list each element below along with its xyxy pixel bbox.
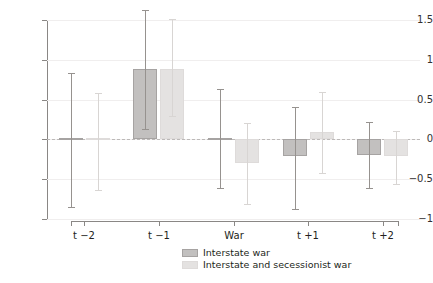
legend-swatch-icon xyxy=(182,261,198,269)
gridline--1 xyxy=(47,219,420,220)
plot-area xyxy=(47,20,420,219)
x-tick-mark xyxy=(159,221,160,226)
x-tick-label-4: t +2 xyxy=(353,230,413,241)
y-tick-label: 0 xyxy=(397,134,433,144)
y-tick-label: 1 xyxy=(397,55,433,65)
legend-label: Interstate war xyxy=(203,247,270,259)
x-tick-mark xyxy=(383,221,384,226)
y-tick-mark xyxy=(42,60,47,61)
x-tick-mark xyxy=(234,221,235,226)
x-tick-label-3: t +1 xyxy=(278,230,338,241)
y-tick-mark xyxy=(42,219,47,220)
error-bar-cap-upper xyxy=(393,131,400,132)
y-tick-mark xyxy=(42,20,47,21)
x-tick-label-2: War xyxy=(204,230,264,241)
y-tick-mark xyxy=(42,179,47,180)
legend-label: Interstate and secessionist war xyxy=(203,259,351,271)
y-tick-mark xyxy=(42,100,47,101)
chart-container: −1−0.500.511.5 t −2t −1Wart +1t +2 Inter… xyxy=(0,0,433,283)
x-tick-label-0: t −2 xyxy=(54,230,114,241)
legend-swatch-icon xyxy=(182,249,198,257)
chart-legend: Interstate warInterstate and secessionis… xyxy=(182,247,351,271)
error-bar-line xyxy=(369,122,370,188)
x-tick-label-1: t −1 xyxy=(129,230,189,241)
x-axis-bracket xyxy=(71,221,399,226)
error-bar-cap-upper xyxy=(366,122,373,123)
x-tick-mark xyxy=(308,221,309,226)
y-tick-label: −1 xyxy=(397,214,433,224)
error-bar-cap-lower xyxy=(366,188,373,189)
legend-item-1: Interstate and secessionist war xyxy=(182,259,351,271)
y-tick-label: 0.5 xyxy=(397,95,433,105)
error-bar-cap-upper xyxy=(142,10,149,11)
y-tick-label: −0.5 xyxy=(397,174,433,184)
legend-item-0: Interstate war xyxy=(182,247,351,259)
y-tick-mark xyxy=(42,139,47,140)
bar-group-4 xyxy=(47,20,420,219)
x-tick-mark xyxy=(84,221,85,226)
y-tick-label: 1.5 xyxy=(397,15,433,25)
